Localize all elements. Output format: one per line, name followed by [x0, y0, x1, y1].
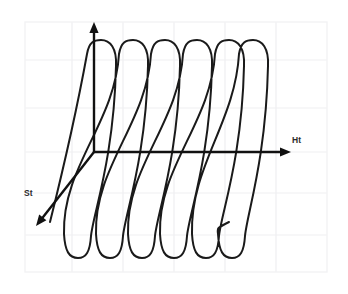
helix-diagram-figure: Ht St: [0, 0, 348, 294]
ht-axis-label: Ht: [292, 135, 301, 145]
st-axis-label: St: [24, 188, 33, 198]
diagram-canvas: Ht St: [0, 0, 348, 294]
